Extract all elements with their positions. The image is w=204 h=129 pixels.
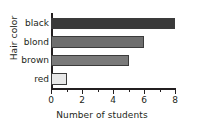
x-tick-minor [160,89,161,92]
category-label-brown: brown [0,55,49,65]
plot-area [51,14,175,88]
x-tick-minor [129,89,130,92]
bar-row [51,51,129,70]
x-axis-title: Number of students [0,110,204,120]
x-tick-label: 0 [41,95,61,105]
bar-row [51,14,175,33]
category-label-black: black [0,18,49,28]
bar-row [51,33,144,52]
x-tick-label: 8 [165,95,185,105]
bar-chart: Hair color blackblondbrownred 02468 Numb… [0,0,204,129]
x-tick-minor [67,89,68,92]
x-tick-major [144,89,145,94]
bar-black [51,18,175,30]
x-tick-minor [98,89,99,92]
bar-row [51,70,67,89]
bar-blond [51,36,144,48]
bar-red [51,73,67,85]
category-label-red: red [0,74,49,84]
bar-brown [51,55,129,67]
x-tick-major [175,89,176,94]
x-tick-major [82,89,83,94]
x-tick-label: 4 [103,95,123,105]
x-tick-major [51,89,52,94]
category-label-blond: blond [0,37,49,47]
x-tick-label: 2 [72,95,92,105]
x-tick-label: 6 [134,95,154,105]
x-tick-major [113,89,114,94]
